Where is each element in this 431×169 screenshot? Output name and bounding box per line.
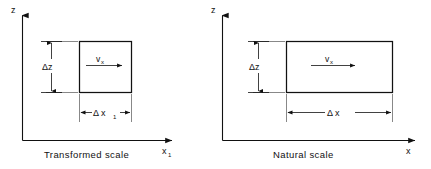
transformed-delta-z-label: Δz [42, 62, 53, 72]
natural-delta-x-label: Δ x [327, 108, 340, 118]
natural-velocity-label-subscript: x [330, 59, 333, 65]
transformed-x-axis-label-subscript: 1 [168, 152, 172, 158]
figure-container: z x 1 Δz Δ x 1 v x [0, 0, 431, 169]
transformed-x-axis-label-text: x [162, 146, 167, 156]
natural-z-axis-label: z [211, 5, 216, 15]
natural-caption: Natural scale [273, 149, 334, 160]
transformed-control-volume [80, 42, 132, 93]
natural-x-axis-label: x [406, 146, 411, 156]
panel-natural: z x Δz Δ x v x N [211, 5, 415, 160]
panel-transformed: z x 1 Δz Δ x 1 v x [11, 5, 172, 160]
natural-delta-x-label-text: Δ x [327, 108, 340, 118]
transformed-velocity-label-subscript: x [101, 59, 104, 65]
transformed-z-axis-label: z [11, 5, 16, 15]
transformed-x-axis-label: x 1 [162, 146, 172, 158]
natural-x-axis-label-text: x [406, 146, 411, 156]
transformed-delta-x-label-text: Δ x [93, 108, 106, 118]
natural-control-volume [287, 42, 393, 93]
diagram-svg: z x 1 Δz Δ x 1 v x [0, 0, 431, 169]
transformed-caption: Transformed scale [44, 149, 129, 160]
natural-delta-z-label: Δz [249, 62, 260, 72]
